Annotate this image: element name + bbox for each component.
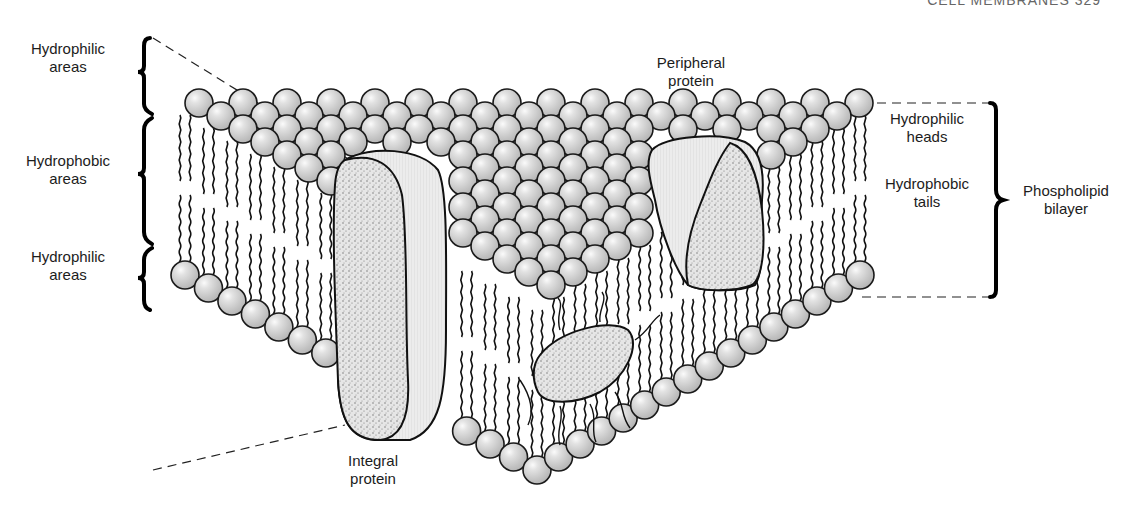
label-line: Phospholipid [1004,182,1128,200]
label-line: protein [636,72,746,90]
membrane-diagram [0,0,1139,513]
label-line: areas [2,170,134,188]
label-line: Hydrophobic [866,175,988,193]
right-bracket [990,103,1003,297]
integral-protein-shape [334,151,446,440]
label-line: areas [8,266,128,284]
lipid-head [537,271,565,299]
label-left-hydrophilic-bottom: Hydrophilic areas [8,248,128,284]
lipid-head [846,261,874,289]
left-bracket-middle [138,118,152,244]
label-line: heads [868,128,986,146]
label-line: Hydrophilic [8,248,128,266]
label-phospholipid-bilayer: Phospholipid bilayer [1004,182,1128,218]
left-bracket-top [138,38,152,114]
label-line: protein [318,470,428,488]
label-line: Peripheral [636,54,746,72]
label-line: Hydrophobic [2,152,134,170]
label-line: areas [8,58,128,76]
label-line: Hydrophilic [8,40,128,58]
label-integral-protein: Integral protein [318,452,428,488]
label-hydrophilic-heads: Hydrophilic heads [868,110,986,146]
label-left-hydrophilic-top: Hydrophilic areas [8,40,128,76]
label-line: Hydrophilic [868,110,986,128]
label-line: bilayer [1004,200,1128,218]
label-left-hydrophobic: Hydrophobic areas [2,152,134,188]
label-peripheral-protein: Peripheral protein [636,54,746,90]
label-line: Integral [318,452,428,470]
lipid-head [312,339,340,367]
peripheral-protein-shape [649,136,764,290]
label-line: tails [866,193,988,211]
left-bracket-bottom [138,248,152,310]
label-hydrophobic-tails: Hydrophobic tails [866,175,988,211]
